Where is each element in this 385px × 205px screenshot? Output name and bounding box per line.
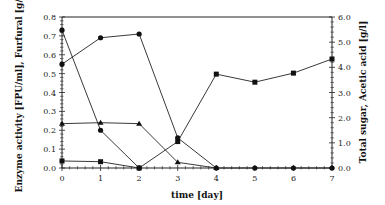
triangle-marker	[98, 120, 104, 125]
series-line-0	[62, 34, 332, 168]
square-marker	[175, 139, 180, 144]
x-tick-label: 0	[59, 174, 64, 183]
x-axis-title: time [day]	[171, 190, 223, 200]
x-tick-label: 5	[252, 174, 257, 183]
square-marker	[252, 80, 257, 85]
circle-marker	[291, 165, 296, 170]
y-right-tick-label: 0.0	[338, 164, 351, 173]
y-left-tick-label: 0.4	[43, 89, 56, 98]
y-right-tick-label: 5.0	[338, 38, 351, 47]
x-tick-label: 6	[291, 174, 296, 183]
circle-marker	[98, 35, 103, 40]
y-right-tick-label: 4.0	[338, 63, 351, 72]
x-tick-label: 3	[175, 174, 180, 183]
square-marker	[98, 159, 103, 164]
y-left-tick-label: 0.8	[43, 13, 56, 22]
circle-marker	[59, 28, 64, 33]
circle-marker	[137, 31, 142, 36]
y-left-tick-label: 0.7	[43, 32, 56, 41]
y-right-tick-label: 6.0	[338, 13, 351, 22]
axes: 0.00.10.20.30.40.50.60.70.80.01.02.03.04…	[43, 13, 350, 183]
y-left-tick-label: 0.2	[43, 126, 56, 135]
circle-marker	[59, 62, 64, 67]
circle-marker	[252, 165, 257, 170]
square-marker	[137, 166, 142, 171]
y-left-tick-label: 0.0	[43, 164, 56, 173]
x-tick-label: 4	[214, 174, 219, 183]
line-chart: 0.00.10.20.30.40.50.60.70.80.01.02.03.04…	[0, 0, 385, 205]
circle-marker	[329, 165, 334, 170]
series-group	[59, 28, 335, 171]
y-left-tick-label: 0.6	[43, 51, 56, 60]
square-marker	[214, 72, 219, 77]
square-marker	[330, 57, 335, 62]
square-marker	[291, 71, 296, 76]
x-tick-label: 7	[329, 174, 334, 183]
x-tick-label: 2	[137, 174, 142, 183]
y-axis-left-title: Enzyme activity [FPU/ml], Furfural [g/l]	[14, 0, 25, 192]
y-left-tick-label: 0.3	[43, 107, 56, 116]
y-right-tick-label: 3.0	[338, 89, 351, 98]
y-right-tick-label: 1.0	[338, 139, 351, 148]
y-right-tick-label: 2.0	[338, 114, 351, 123]
y-axis-right-title: Total sugar, Acetic acid [g/l]	[358, 21, 369, 163]
circle-marker	[98, 128, 103, 133]
series-line-1	[62, 30, 139, 168]
x-tick-label: 1	[98, 174, 103, 183]
y-left-tick-label: 0.1	[43, 145, 56, 154]
y-left-tick-label: 0.5	[43, 70, 56, 79]
square-marker	[60, 158, 65, 163]
